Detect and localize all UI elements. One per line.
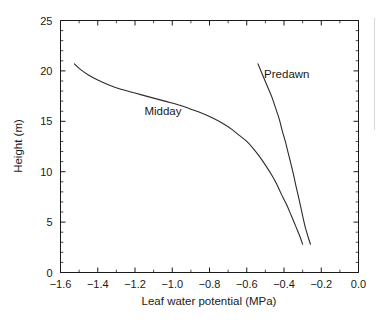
chart-background — [0, 0, 382, 322]
y-tick-label: 0 — [46, 267, 52, 279]
y-tick-label: 5 — [46, 216, 52, 228]
x-tick-label: 0.0 — [351, 278, 366, 290]
leaf-water-potential-height-chart: −1.6−1.4−1.2−1.0−0.8−0.6−0.4−0.20.0 0510… — [0, 0, 382, 322]
series-label-predawn: Predawn — [264, 68, 309, 80]
chart-figure: −1.6−1.4−1.2−1.0−0.8−0.6−0.4−0.20.0 0510… — [0, 0, 382, 322]
x-tick-label: −0.4 — [273, 278, 295, 290]
y-tick-label: 20 — [40, 65, 52, 77]
x-tick-label: −0.2 — [310, 278, 332, 290]
x-tick-label: −1.2 — [124, 278, 146, 290]
x-tick-label: −0.8 — [199, 278, 221, 290]
series-label-midday: Midday — [144, 105, 181, 117]
x-tick-label: −1.4 — [87, 278, 109, 290]
x-tick-label: −1.0 — [161, 278, 183, 290]
y-tick-label: 10 — [40, 166, 52, 178]
x-axis-tick-labels: −1.6−1.4−1.2−1.0−0.8−0.6−0.4−0.20.0 — [50, 278, 367, 290]
y-tick-label: 25 — [40, 15, 52, 27]
y-axis-title: Height (m) — [12, 119, 24, 173]
x-tick-label: −1.6 — [50, 278, 72, 290]
y-tick-label: 15 — [40, 115, 52, 127]
x-tick-label: −0.6 — [236, 278, 258, 290]
x-axis-title: Leaf water potential (MPa) — [142, 295, 277, 307]
